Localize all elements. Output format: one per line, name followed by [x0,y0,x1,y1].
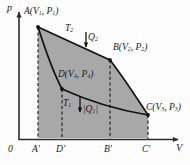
heat-out-label: |Q1| [83,105,98,115]
point-D-marker [60,87,64,91]
pv-diagram-canvas [0,0,190,165]
point-C-label: C(V3, P3) [146,103,181,113]
point-B-marker [108,58,112,62]
point-D-label: D(V4, P4) [58,70,93,80]
point-A-label: A(V1, P1) [24,7,58,17]
isotherm-T1-label: T1 [63,99,71,109]
pv-diagram-figure: p V 0 A(V1, P1) B(V2, P2) C(V3, P3) D(V4… [0,0,190,165]
isotherm-T2-label: T2 [65,24,73,34]
y-axis-label: p [7,3,12,13]
point-C-marker [146,113,150,117]
x-tick-label-B-prime: B' [104,145,112,155]
x-tick-label-D-prime: D' [56,145,65,155]
x-tick-label-C-prime: C' [142,145,150,155]
point-B-label: B(V2, P2) [113,43,147,53]
heat-in-label: Q2 [88,33,98,43]
origin-label: 0 [8,145,13,155]
x-axis-label: V [176,143,182,153]
point-A-marker [36,25,40,29]
x-tick-label-A-prime: A' [32,145,40,155]
